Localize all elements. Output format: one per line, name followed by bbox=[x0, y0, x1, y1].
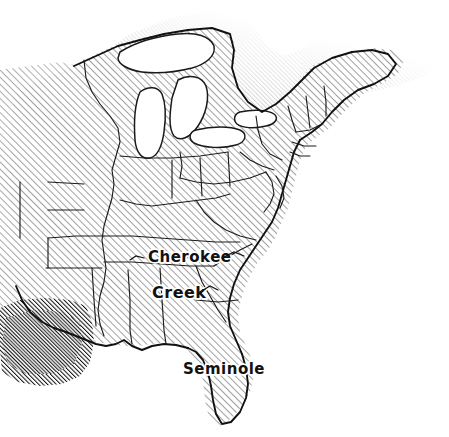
label-seminole-group: Seminole Seminole bbox=[183, 360, 265, 378]
region-texas-dark-hatch bbox=[0, 298, 94, 386]
label-seminole: Seminole bbox=[183, 360, 265, 378]
label-cherokee: Cherokee bbox=[148, 248, 231, 266]
label-creek: Creek bbox=[152, 283, 206, 302]
hand-drawn-map: Cherokee Cherokee Creek Creek Seminole S… bbox=[0, 0, 449, 437]
map-canvas: Cherokee Cherokee Creek Creek Seminole S… bbox=[0, 0, 449, 437]
label-cherokee-group: Cherokee Cherokee bbox=[130, 248, 244, 266]
